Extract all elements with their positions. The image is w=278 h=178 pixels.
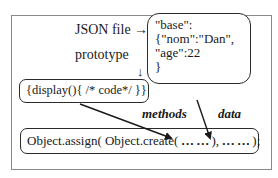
methods-placeholder: … … bbox=[178, 133, 211, 148]
down-arrow-icon: ↓ bbox=[137, 64, 144, 80]
data-label: data bbox=[218, 106, 241, 122]
json-file-label: JSON file → bbox=[75, 22, 148, 38]
prototype-label: prototype bbox=[75, 47, 129, 63]
assign-code-part2: ), bbox=[211, 133, 219, 148]
json-data-box: "base": {"nom":"Dan", "age":22 } bbox=[147, 13, 251, 84]
prototype-code: {display(){ /* code*/ }} bbox=[26, 83, 147, 97]
json-line: "base": bbox=[155, 18, 250, 32]
assign-code-part1: Object.assign( Object.create( bbox=[27, 133, 178, 148]
json-line: "age":22 bbox=[155, 46, 250, 60]
json-line: } bbox=[155, 60, 250, 74]
methods-label: methods bbox=[142, 106, 187, 122]
json-line: {"nom":"Dan", bbox=[155, 32, 250, 46]
data-placeholder: … … bbox=[219, 133, 252, 148]
prototype-code-box: {display(){ /* code*/ }} bbox=[19, 79, 149, 103]
object-assign-box: Object.assign( Object.create( … … ), … …… bbox=[20, 128, 259, 154]
assign-code-part3: ); bbox=[252, 133, 260, 148]
